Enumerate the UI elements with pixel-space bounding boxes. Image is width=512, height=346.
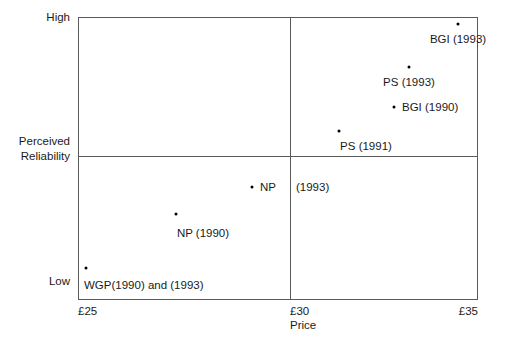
data-label-np-1990: NP (1990) bbox=[177, 227, 229, 240]
y-axis-title-perceived-reliability: Perceived Reliability bbox=[19, 134, 78, 164]
y-axis-title-line1: Perceived bbox=[19, 134, 70, 149]
data-point-bgi-1990 bbox=[393, 106, 396, 109]
data-point-ps-1991 bbox=[338, 130, 341, 133]
data-point-np-1993 bbox=[251, 186, 254, 189]
y-axis-title-line2: Reliability bbox=[19, 149, 70, 164]
x-axis-tick-30: £30 bbox=[290, 305, 309, 318]
data-label-ps-1991: PS (1991) bbox=[340, 140, 392, 153]
x-axis-tick-35: £35 bbox=[459, 305, 478, 318]
data-label-np-1993-year: (1993) bbox=[296, 181, 329, 194]
data-point-wgp bbox=[85, 267, 88, 270]
data-label-wgp: WGP(1990) and (1993) bbox=[84, 279, 204, 292]
data-label-np-1993-name: NP bbox=[260, 181, 276, 194]
x-axis-tick-25: £25 bbox=[78, 305, 97, 318]
data-label-bgi-1993: BGI (1993) bbox=[430, 33, 486, 46]
quadrant-divider-vertical bbox=[290, 17, 291, 300]
data-point-bgi-1993 bbox=[457, 23, 460, 26]
data-point-np-1990 bbox=[175, 213, 178, 216]
data-label-bgi-1990: BGI (1990) bbox=[402, 101, 458, 114]
data-point-ps-1993 bbox=[408, 66, 411, 69]
y-axis-label-low: Low bbox=[49, 274, 78, 288]
plot-area bbox=[78, 17, 478, 300]
y-axis-label-high: High bbox=[46, 10, 78, 24]
x-axis-title: Price bbox=[290, 319, 316, 332]
quadrant-divider-horizontal bbox=[78, 156, 478, 157]
scatter-chart: High Perceived Reliability Low £25 £30 £… bbox=[0, 0, 512, 346]
data-label-ps-1993: PS (1993) bbox=[383, 76, 435, 89]
